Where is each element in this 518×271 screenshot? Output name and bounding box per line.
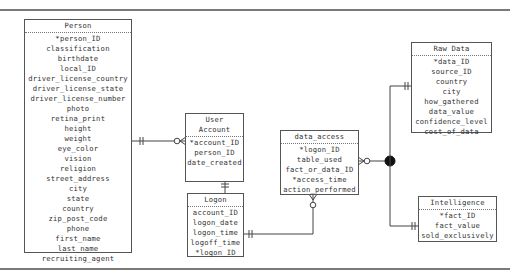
attribute: *person_ID: [26, 34, 130, 44]
attribute: *account_ID: [187, 138, 242, 148]
rel-logon-data-access: [243, 194, 317, 238]
attribute: logoff_time: [189, 238, 242, 248]
attribute: date_created: [187, 158, 242, 168]
entity-title: Raw Data: [412, 43, 491, 56]
attribute-list: *data_ID source_ID country city how_gath…: [412, 56, 491, 138]
attribute: driver_license_number: [26, 94, 130, 104]
attribute: classification: [26, 44, 130, 54]
attribute: religion: [26, 164, 130, 174]
attribute: sold_exclusively: [420, 231, 495, 241]
rel-user-account-logon: [221, 182, 229, 193]
attribute: *access_time: [282, 175, 357, 185]
attribute: table_used: [282, 155, 357, 165]
attribute: zip_post_code: [26, 214, 130, 224]
attribute: data_value: [413, 107, 490, 117]
attribute: vision: [26, 154, 130, 164]
attribute: country: [26, 204, 130, 214]
entity-title: Person: [25, 20, 131, 33]
attribute-list: *fact_ID fact_value sold_exclusively: [419, 210, 496, 242]
attribute: driver_license_state: [26, 84, 130, 94]
rel-data-access-junction: [358, 156, 395, 166]
attribute-list: account_ID logon_date logon_time logoff_…: [188, 207, 243, 259]
attribute: fact_or_data_ID: [282, 165, 357, 175]
attribute: fact_value: [420, 221, 495, 231]
attribute: eye_color: [26, 144, 130, 154]
attribute-list: *person_ID classification birthdate loca…: [25, 33, 131, 265]
attribute: city: [26, 184, 130, 194]
attribute: city: [413, 87, 490, 97]
attribute: photo: [26, 104, 130, 114]
attribute: confidence_level: [413, 117, 490, 127]
attribute: *fact_ID: [420, 211, 495, 221]
entity-title: Logon: [188, 194, 243, 207]
entity-title: data_access: [281, 131, 358, 144]
entity-logon[interactable]: Logon account_ID logon_date logon_time l…: [187, 193, 244, 257]
attribute: source_ID: [413, 67, 490, 77]
attribute: height: [26, 124, 130, 134]
attribute: retina_print: [26, 114, 130, 124]
attribute: person_ID: [187, 148, 242, 158]
attribute: local_ID: [26, 64, 130, 74]
attribute: cost_of_data: [413, 127, 490, 137]
attribute: driver_license_country: [26, 74, 130, 84]
entity-intelligence[interactable]: Intelligence *fact_ID fact_value sold_ex…: [418, 196, 497, 242]
attribute: phone: [26, 224, 130, 234]
attribute: birthdate: [26, 54, 130, 64]
attribute: logon_date: [189, 218, 242, 228]
attribute: state: [26, 194, 130, 204]
rel-person-user-account: [131, 137, 186, 145]
attribute: *logon_ID: [282, 145, 357, 155]
entity-title: Intelligence: [419, 197, 496, 210]
attribute: street_address: [26, 174, 130, 184]
attribute: action_performed: [282, 185, 357, 195]
attribute: *data_ID: [413, 57, 490, 67]
attribute: logon_time: [189, 228, 242, 238]
attribute: recruiting_agent: [26, 254, 130, 264]
entity-title: User Account: [186, 114, 243, 137]
attribute: account_ID: [189, 208, 242, 218]
attribute: weight: [26, 134, 130, 144]
entity-data-access[interactable]: data_access *logon_ID table_used fact_or…: [280, 130, 359, 195]
attribute: how_gathered: [413, 97, 490, 107]
attribute: country: [413, 77, 490, 87]
attribute-list: *logon_ID table_used fact_or_data_ID *ac…: [281, 144, 358, 196]
entity-person[interactable]: Person *person_ID classification birthda…: [24, 19, 132, 253]
attribute: last_name: [26, 244, 130, 254]
attribute: *logon_ID: [189, 248, 242, 258]
entity-user-account[interactable]: User Account *account_ID person_ID date_…: [185, 113, 244, 182]
attribute: first_name: [26, 234, 130, 244]
attribute-list: *account_ID person_ID date_created: [186, 137, 243, 169]
entity-raw-data[interactable]: Raw Data *data_ID source_ID country city…: [411, 42, 492, 133]
